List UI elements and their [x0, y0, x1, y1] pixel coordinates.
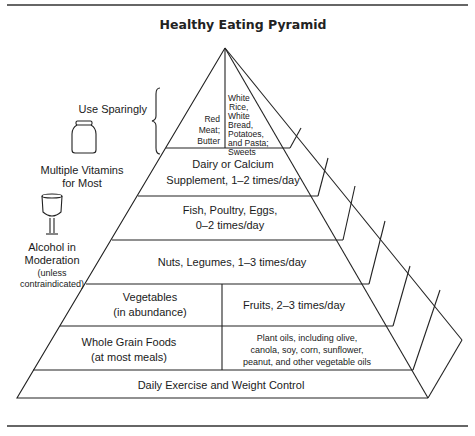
- tier-whole-grains: Whole Grain Foods (at most meals): [82, 336, 177, 363]
- vitamin-jar-icon: [72, 121, 96, 153]
- svg-text:Red: Red: [204, 114, 220, 124]
- svg-text:Supplement, 1–2 times/day: Supplement, 1–2 times/day: [166, 174, 300, 186]
- healthy-eating-pyramid-diagram: Healthy Eating Pyramid Use Sparingly Mul…: [0, 0, 475, 436]
- tier-plant-oils: Plant oils, including olive, canola, soy…: [243, 333, 372, 367]
- alcohol-label-line4: contraindicated): [20, 279, 84, 289]
- svg-text:canola, soy, corn, sunflower,: canola, soy, corn, sunflower,: [251, 345, 364, 355]
- svg-text:(at most meals): (at most meals): [91, 351, 167, 363]
- svg-text:Fish, Poultry, Eggs,: Fish, Poultry, Eggs,: [183, 204, 278, 216]
- tier-fish-poultry-eggs: Fish, Poultry, Eggs, 0–2 times/day: [183, 204, 278, 231]
- svg-text:Vegetables: Vegetables: [123, 291, 178, 303]
- tier-exercise-weight-control: Daily Exercise and Weight Control: [138, 379, 305, 391]
- svg-text:0–2 times/day: 0–2 times/day: [196, 219, 265, 231]
- alcohol-label-line1: Alcohol in: [28, 241, 76, 253]
- use-sparingly-brace: [152, 88, 160, 154]
- svg-text:(in abundance): (in abundance): [113, 306, 186, 318]
- tier-nuts-legumes: Nuts, Legumes, 1–3 times/day: [158, 256, 307, 268]
- svg-text:peanut, and other vegetable oi: peanut, and other vegetable oils: [243, 357, 372, 367]
- wine-glass-icon: [42, 194, 62, 234]
- alcohol-label-line2: Moderation: [24, 254, 79, 266]
- svg-text:Plant oils, including olive,: Plant oils, including olive,: [257, 333, 358, 343]
- use-sparingly-label: Use Sparingly: [79, 103, 148, 115]
- vitamins-label-line1: Multiple Vitamins: [41, 164, 124, 176]
- vitamins-label-line2: for Most: [62, 177, 102, 189]
- diagram-title: Healthy Eating Pyramid: [160, 17, 327, 32]
- tier-fruits: Fruits, 2–3 times/day: [243, 299, 346, 311]
- svg-text:Butter: Butter: [197, 136, 220, 146]
- alcohol-label-line3: (unless: [37, 268, 67, 278]
- svg-text:Sweets: Sweets: [228, 147, 256, 157]
- tier-white-carbs: White Rice, White Bread, Potatoes, and P…: [228, 93, 269, 157]
- tier-dairy: Dairy or Calcium Supplement, 1–2 times/d…: [166, 158, 300, 186]
- svg-text:Meat;: Meat;: [199, 125, 220, 135]
- tier-red-meat: Red Meat; Butter: [197, 114, 220, 146]
- svg-text:Dairy or Calcium: Dairy or Calcium: [192, 158, 273, 170]
- svg-text:Whole Grain Foods: Whole Grain Foods: [82, 336, 177, 348]
- tier-vegetables: Vegetables (in abundance): [113, 291, 186, 318]
